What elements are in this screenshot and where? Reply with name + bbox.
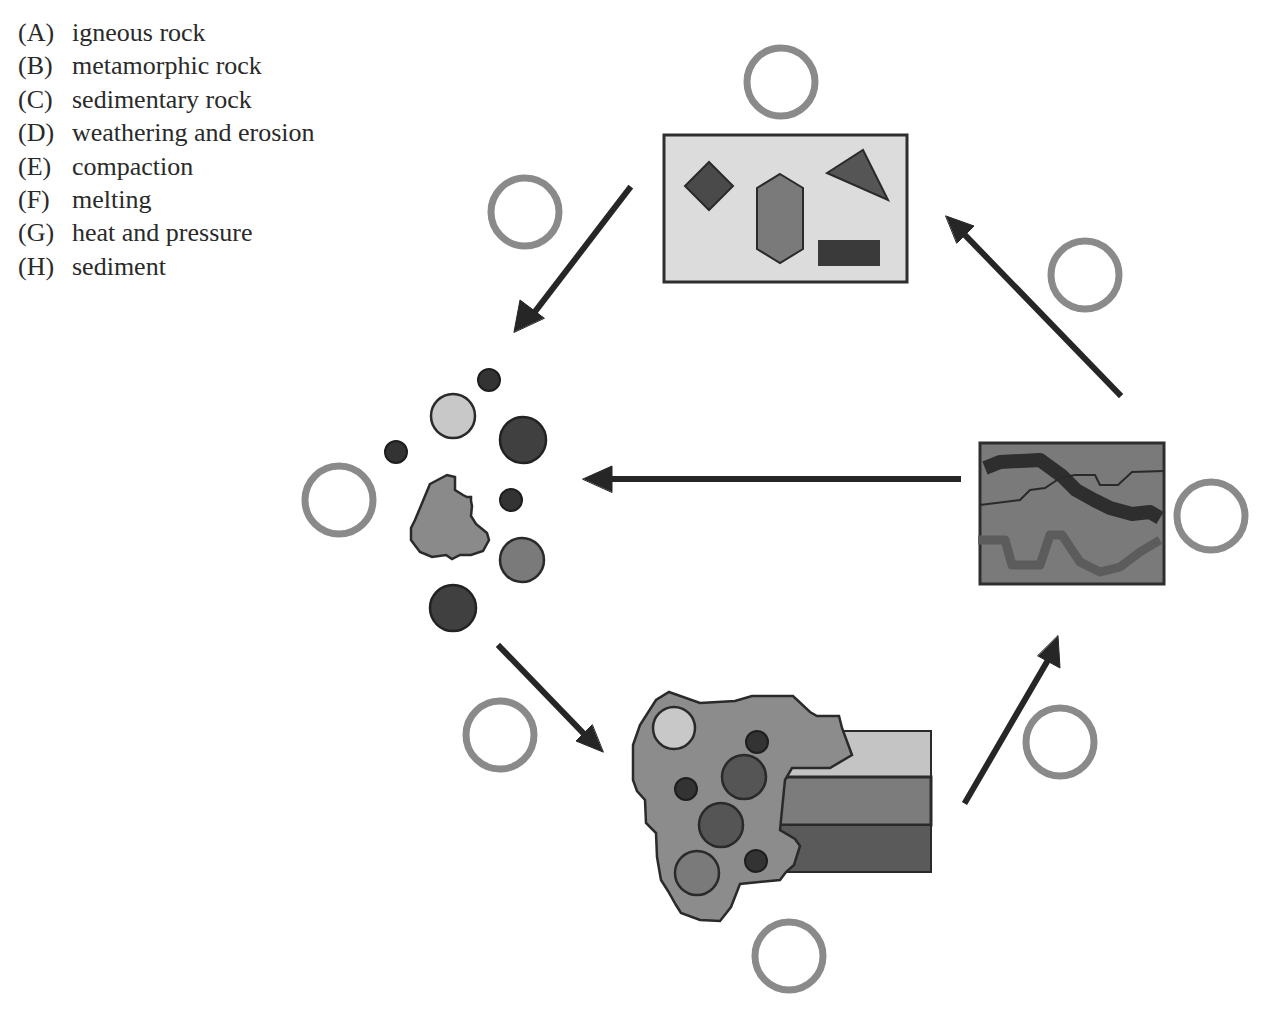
- answer-circle-upper-right[interactable]: [1051, 241, 1119, 309]
- answer-circle-lower-left[interactable]: [466, 701, 534, 769]
- arrow-compaction: [500, 647, 603, 752]
- hexagon-crystal: [757, 174, 803, 263]
- answer-circle-upper-left[interactable]: [491, 178, 559, 246]
- answer-circle-top[interactable]: [747, 48, 815, 116]
- answer-circle-left[interactable]: [305, 466, 373, 534]
- rectangle-crystal: [818, 240, 880, 266]
- arrow-weathering: [514, 189, 629, 332]
- sedimentary-rock-block: [633, 692, 931, 921]
- metamorphic-rock-box: [978, 443, 1164, 584]
- answer-circle-lower-right[interactable]: [1026, 708, 1094, 776]
- igneous-rock-box: [664, 135, 907, 282]
- rock-cycle-diagram: [0, 0, 1264, 1019]
- sediment-cluster: [385, 369, 546, 631]
- answer-circle-bottom[interactable]: [755, 922, 823, 990]
- arrow-metamorphic-to-sediment: [583, 466, 958, 492]
- rock-fragment: [411, 475, 489, 559]
- answer-circle-right[interactable]: [1177, 482, 1245, 550]
